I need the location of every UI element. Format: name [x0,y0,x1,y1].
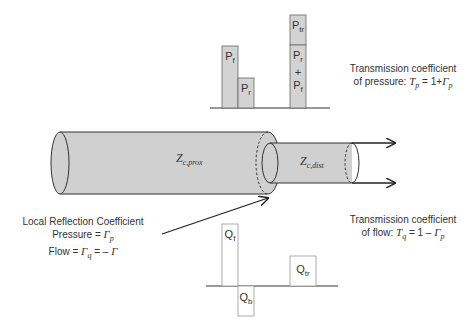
local-reflection-title: Local Reflection Coefficient [8,215,158,228]
reflection-flow-line: Flow = Γq = – Γ [8,245,158,262]
label-z-prox: Zc,prox [176,152,203,169]
flow-transmission-text: Transmission coefficient of flow: Tq = 1… [340,213,466,243]
label-Pr-plus-Pf: Pr + Pf [290,49,306,96]
reflection-pressure-line: Pressure = Γp [8,228,158,245]
local-reflection-text: Local Reflection Coefficient Pressure = … [8,215,158,262]
pressure-transmission-text: Transmission coefficient of pressure: Tp… [340,62,466,92]
label-Pr: Pr [239,82,253,97]
proximal-vessel-opening [51,132,69,194]
label-Qtr: Qtr [291,263,315,278]
label-Qb: Qb [239,291,253,306]
reflection-pointer-arrow [162,198,268,234]
label-Pf: Pf [223,50,237,65]
proximal-vessel [51,132,280,194]
distal-vessel-opening [262,143,278,183]
label-Ptr: Ptr [290,19,306,34]
label-z-dist: Zc,dist [300,155,324,172]
label-Qf: Qf [223,228,237,243]
